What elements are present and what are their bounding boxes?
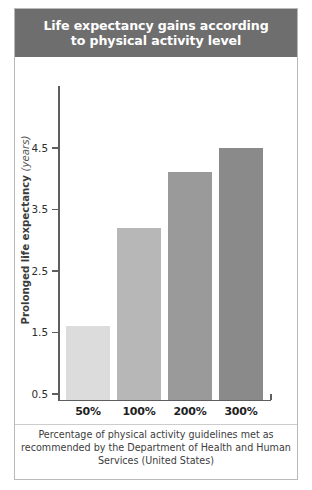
chart-figure: Life expectancy gains according to physi… [0,0,312,490]
x-axis-end-cap [270,394,272,400]
x-axis-tick-label: 300% [219,405,263,418]
bar [117,228,161,400]
x-axis-tick-label: 200% [168,405,212,418]
bar [219,148,263,400]
bar [66,326,110,400]
bar [168,172,212,400]
x-axis-tick-label: 50% [66,405,110,418]
chart-caption: Percentage of physical activity guidelin… [20,428,292,468]
x-axis-tick-label: 100% [117,405,161,418]
caption-divider [15,424,297,425]
